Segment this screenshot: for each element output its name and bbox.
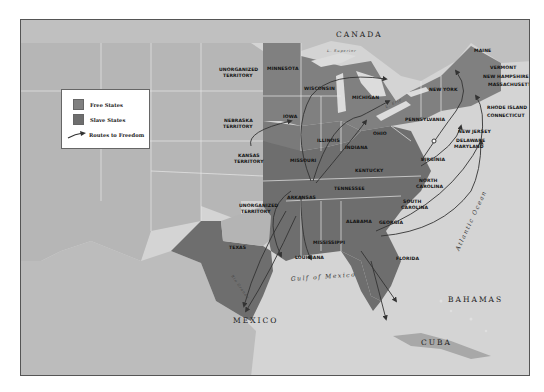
label-illinois: ILLINOIS xyxy=(317,138,340,143)
label-south-carolina-2: CAROLINA xyxy=(401,205,429,210)
label-kentucky: KENTUCKY xyxy=(355,168,384,173)
legend-label-free: Free States xyxy=(90,102,123,108)
label-mexico: MEXICO xyxy=(233,316,278,325)
legend-slave-states: Slave States xyxy=(73,114,125,125)
label-unorganized-north-2: TERRITORY xyxy=(223,73,253,78)
underground-railroad-map: CANADA MEXICO BAHAMAS CUBA Gulf of Mexic… xyxy=(21,20,530,376)
label-texas: TEXAS xyxy=(229,245,246,250)
legend-routes: Routes to Freedom xyxy=(67,131,144,139)
label-missouri: MISSOURI xyxy=(290,158,317,163)
label-tennessee: TENNESSEE xyxy=(334,186,365,191)
label-nebraska-1: NEBRASKA xyxy=(224,118,253,123)
label-minnesota: MINNESOTA xyxy=(267,66,299,71)
label-maryland: MARYLAND xyxy=(454,144,484,149)
label-iowa: IOWA xyxy=(283,114,298,119)
map-frame: CANADA MEXICO BAHAMAS CUBA Gulf of Mexic… xyxy=(20,19,530,376)
label-alabama: ALABAMA xyxy=(346,219,372,224)
map-legend: Free States Slave States Routes to Freed… xyxy=(61,89,150,149)
label-wisconsin: WISCONSIN xyxy=(304,86,335,91)
label-virginia: VIRGINIA xyxy=(421,157,446,162)
label-nebraska-2: TERRITORY xyxy=(223,124,253,129)
label-unorganized-south-1: UNORGANIZED xyxy=(239,203,278,208)
legend-free-states: Free States xyxy=(73,99,123,110)
label-kansas-1: KANSAS xyxy=(238,153,260,158)
label-connecticut: CONNECTICUT xyxy=(487,113,525,118)
label-mississippi: MISSISSIPPI xyxy=(313,240,345,245)
slave-states-swatch xyxy=(73,114,84,125)
label-michigan: MICHIGAN xyxy=(352,95,379,100)
label-florida: FLORIDA xyxy=(396,256,419,261)
label-delaware: DELAWARE xyxy=(456,138,485,143)
label-massachusetts: MASSACHUSETTS xyxy=(488,82,530,87)
label-bahamas: BAHAMAS xyxy=(448,295,503,304)
label-new-hampshire: NEW HAMPSHIRE xyxy=(483,74,529,79)
label-rhode-island: RHODE ISLAND xyxy=(487,105,527,110)
label-louisiana: LOUISIANA xyxy=(295,255,324,260)
label-cuba: CUBA xyxy=(421,338,452,347)
label-arkansas: ARKANSAS xyxy=(287,195,316,200)
label-georgia: GEORGIA xyxy=(379,220,403,225)
label-new-jersey: NEW JERSEY xyxy=(458,129,491,134)
legend-label-slave: Slave States xyxy=(90,117,125,123)
label-unorganized-south-2: TERRITORY xyxy=(241,209,271,214)
label-north-carolina-2: CAROLINA xyxy=(416,184,444,189)
washington-dc-marker xyxy=(432,139,436,143)
label-new-york: NEW YORK xyxy=(429,87,458,92)
label-unorganized-north-1: UNORGANIZED xyxy=(219,67,258,72)
label-lake-superior: L. Superior xyxy=(326,49,356,53)
label-canada: CANADA xyxy=(336,30,383,39)
label-ohio: OHIO xyxy=(373,131,387,136)
legend-label-routes: Routes to Freedom xyxy=(89,132,144,138)
label-north-carolina-1: NORTH xyxy=(419,178,438,183)
label-pennsylvania: PENNSYLVANIA xyxy=(405,117,446,122)
label-kansas-2: TERRITORY xyxy=(234,159,264,164)
label-south-carolina-1: SOUTH xyxy=(403,199,421,204)
arrow-icon xyxy=(67,131,87,139)
label-vermont: VERMONT xyxy=(490,65,517,70)
label-maine: MAINE xyxy=(474,48,491,53)
free-states-swatch xyxy=(73,99,84,110)
label-indiana: INDIANA xyxy=(345,145,368,150)
